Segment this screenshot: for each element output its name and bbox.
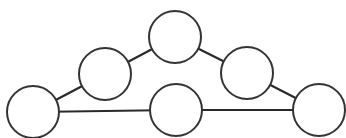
graph-diagram [0,0,346,138]
node-circle-n4 [221,47,273,99]
node-circle-n1 [7,86,59,138]
nodes-group [7,11,345,138]
node-circle-n3 [149,11,201,63]
node-circle-n6 [150,84,202,136]
node-circle-n2 [79,48,131,100]
node-circle-n5 [293,84,345,136]
